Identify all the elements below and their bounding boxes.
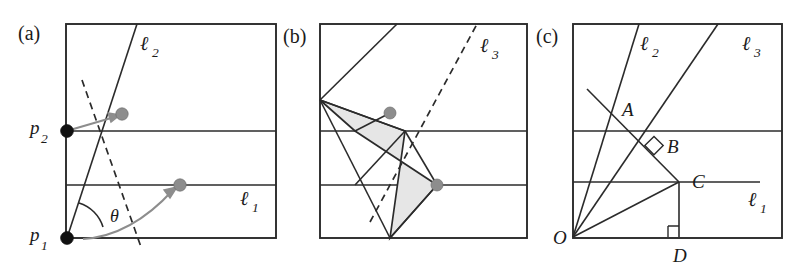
panel-a: (a) ℓ 2 ℓ 1 p 2 p 1 θ <box>18 22 276 253</box>
panel-a-point-label-p2-base: p <box>28 117 40 138</box>
panel-a-point-p2 <box>61 125 74 138</box>
panel-c-line-label-l1-base: ℓ <box>748 188 757 210</box>
panel-c-point-label-D: D <box>672 245 687 266</box>
panel-c-line-label-l1-sub: 1 <box>760 201 767 216</box>
panel-a-line-label-l2-base: ℓ <box>140 32 149 54</box>
panel-b-point-contact-lower <box>431 179 443 191</box>
panel-c-line-label-l3-base: ℓ <box>742 32 751 54</box>
panel-a-point-p1 <box>61 232 74 245</box>
panel-c: (c) ℓ 2 ℓ 3 ℓ 1 A B C O D <box>536 24 782 266</box>
panel-a-angle-arc <box>79 203 103 227</box>
panel-b-tag: (b) <box>283 25 306 48</box>
panel-b-point-contact-upper <box>384 107 396 119</box>
panel-b-wedge-edge-upper <box>320 24 397 100</box>
panel-c-line-label-l2-sub: 2 <box>652 45 659 60</box>
panel-b-line-label-l3-sub: 3 <box>491 47 499 62</box>
panel-a-line-label-l1-sub: 1 <box>252 200 259 215</box>
panel-a-point-label-p1-base: p <box>28 224 40 245</box>
panel-c-point-label-A: A <box>620 99 634 120</box>
geometry-figure-canvas: (a) ℓ 2 ℓ 1 p 2 p 1 θ <box>0 0 807 272</box>
panel-a-angle-label-theta: θ <box>110 206 119 226</box>
panel-a-point-moving-upper <box>116 108 128 120</box>
panel-a-tag: (a) <box>18 22 40 45</box>
panel-c-point-label-O: O <box>553 227 567 248</box>
figure-root: (a) ℓ 2 ℓ 1 p 2 p 1 θ <box>0 0 807 272</box>
panel-c-point-label-C: C <box>692 171 705 192</box>
panel-c-right-angle-at-B <box>645 136 663 154</box>
panel-a-point-label-p2-sub: 2 <box>41 131 48 146</box>
panel-c-segment-OC <box>573 182 679 237</box>
panel-c-point-label-B: B <box>667 136 679 157</box>
panel-c-tag: (c) <box>536 25 558 48</box>
panel-a-point-moving-lower <box>174 179 186 191</box>
panel-b: (b) ℓ 3 <box>283 24 527 238</box>
panel-b-line-label-l3-base: ℓ <box>480 34 489 56</box>
panel-c-line-label-l2-base: ℓ <box>640 32 649 54</box>
panel-a-line-label-l1-base: ℓ <box>240 187 249 209</box>
panel-a-line-label-l2-sub: 2 <box>152 45 159 60</box>
panel-c-right-angle-at-D <box>668 226 679 237</box>
panel-c-line-label-l3-sub: 3 <box>753 45 761 60</box>
panel-a-point-label-p1-sub: 1 <box>41 238 48 253</box>
